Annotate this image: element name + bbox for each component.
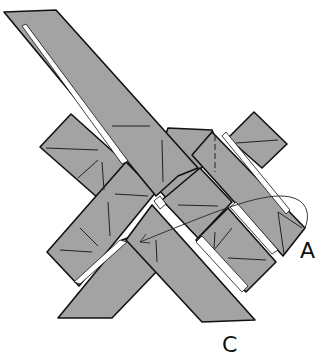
label-c: C <box>222 334 237 356</box>
label-a: A <box>300 240 315 262</box>
origami-diagram <box>0 0 331 364</box>
